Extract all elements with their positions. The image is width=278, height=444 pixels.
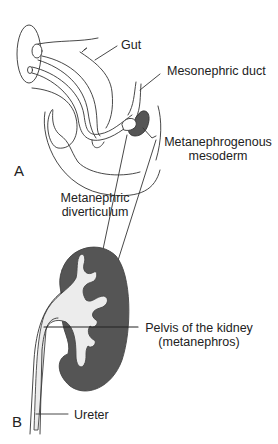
metanephric-bud [122,118,136,130]
label-pelvis-line1: Pelvis of the kidney [141,321,257,335]
label-metanephrogenous-mesoderm: Metanephrogenous mesoderm [163,135,273,163]
label-ureter: Ureter [74,408,109,422]
part-label-b: B [12,413,22,430]
label-pelvis-line2: (metanephros) [141,335,257,349]
label-mesonephric-duct: Mesonephric duct [167,64,266,78]
leader-metanephrogenous [143,128,156,138]
body-line-right [156,106,161,160]
gut-opening [32,44,42,58]
leader-mesonephric [140,74,160,90]
duct-opening [28,67,33,74]
gut-wall-1 [42,56,100,136]
leader-gut [95,46,117,60]
part-label-a: A [14,162,24,179]
label-metanephrogenous-line1: Metanephrogenous [163,135,273,149]
label-diverticulum-line2: diverticulum [58,205,132,219]
mesonephric-duct-1 [32,67,132,134]
body-wall-upper [38,38,98,44]
label-diverticulum-line1: Metanephric [58,191,132,205]
label-gut: Gut [121,38,141,52]
label-metanephrogenous-line2: mesoderm [163,149,273,163]
label-pelvis-of-kidney: Pelvis of the kidney (metanephros) [141,321,257,349]
embryology-figure: A B Gut Mesonephric duct Metanephrogenou… [0,0,278,444]
kidney-section-b [30,247,129,434]
body-wall-outer [32,88,140,175]
gut-top-curve [82,48,87,52]
cloaca-loop [92,140,104,148]
label-metanephric-diverticulum: Metanephric diverticulum [58,191,132,219]
duct-ascending-1 [128,82,136,115]
